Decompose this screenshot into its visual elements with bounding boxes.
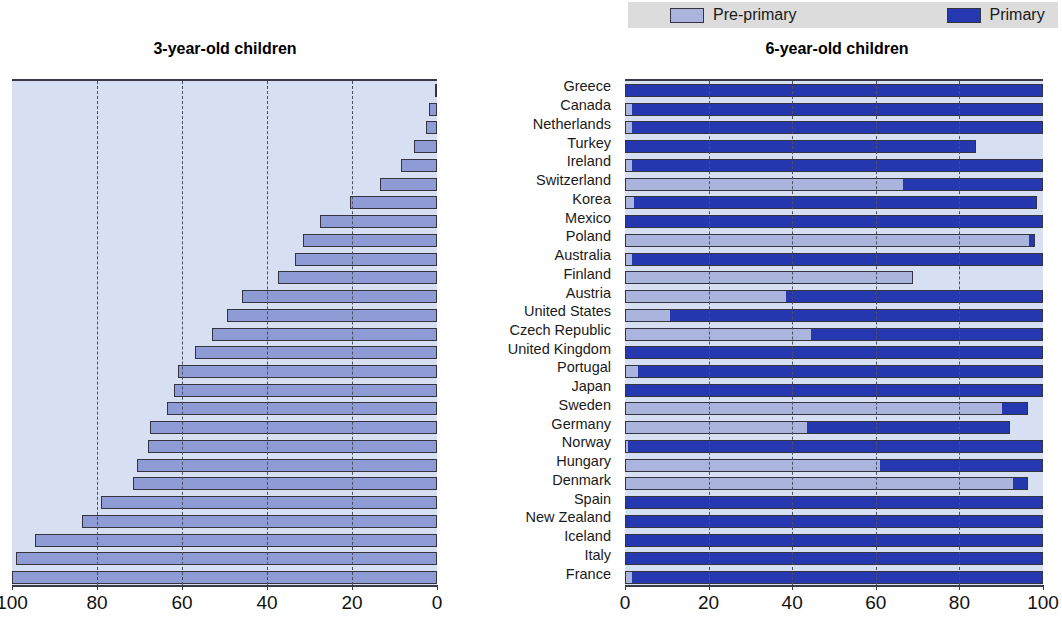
gridline: [182, 81, 183, 585]
bar-6-year-olds: [625, 421, 1010, 434]
gridline: [709, 81, 710, 585]
bar-segment-pre-primary: [626, 366, 638, 377]
plot-area-6-year-olds: [625, 79, 1043, 585]
bar-row: [625, 271, 1043, 284]
bar-6-year-olds: [625, 103, 1043, 116]
bar-6-year-olds: [625, 384, 1043, 397]
bar-row: [625, 309, 1043, 322]
bar-segment-primary: [626, 85, 1042, 96]
category-label: Canada: [560, 99, 611, 112]
bar-segment-primary: [632, 104, 1042, 115]
category-label: Iceland: [564, 530, 611, 543]
bar-3-year-olds: [429, 103, 438, 116]
gridline: [267, 81, 268, 585]
x-tick-mark: [959, 585, 960, 590]
bar-row: [12, 178, 437, 191]
gridline: [792, 81, 793, 585]
chart-title-left: 3-year-old children: [0, 40, 450, 58]
bar-segment-pre-primary: [626, 329, 811, 340]
x-tick-mark: [625, 585, 626, 590]
category-label: United States: [524, 305, 611, 318]
category-label: Spain: [574, 493, 611, 506]
bar-row: [625, 140, 1043, 153]
category-label: Japan: [571, 380, 611, 393]
category-label: Italy: [584, 549, 611, 562]
bar-segment-pre-primary: [626, 272, 912, 283]
x-tick-label: 40: [782, 592, 803, 614]
x-tick-mark: [876, 585, 877, 590]
bar-segment-primary: [1029, 235, 1033, 246]
bar-segment-primary: [632, 254, 1042, 265]
bar-6-year-olds: [625, 309, 1043, 322]
bar-3-year-olds: [320, 215, 437, 228]
bar-segment-pre-primary: [626, 478, 1013, 489]
bar-3-year-olds: [195, 346, 437, 359]
category-label: Sweden: [559, 399, 611, 412]
x-tick-label: 100: [1027, 592, 1059, 614]
bar-segment-primary: [626, 216, 1042, 227]
x-tick-label: 20: [698, 592, 719, 614]
bar-segment-primary: [632, 160, 1042, 171]
bar-6-year-olds: [625, 571, 1043, 584]
bar-row: [12, 459, 437, 472]
bar-3-year-olds: [133, 477, 437, 490]
category-label: Australia: [555, 249, 611, 262]
bar-row: [625, 421, 1043, 434]
bar-6-year-olds: [625, 440, 1043, 453]
bar-row: [625, 440, 1043, 453]
bar-row: [625, 402, 1043, 415]
bar-segment-pre-primary: [626, 460, 880, 471]
x-tick-mark: [1043, 585, 1044, 590]
bar-row: [625, 178, 1043, 191]
bar-segment-primary: [1002, 403, 1027, 414]
bar-3-year-olds: [426, 121, 437, 134]
bar-row: [625, 552, 1043, 565]
bar-3-year-olds: [16, 552, 437, 565]
bar-6-year-olds: [625, 178, 1043, 191]
chart-legend: Pre-primary Primary: [628, 2, 1058, 28]
bar-row: [12, 477, 437, 490]
bar-row: [625, 477, 1043, 490]
bar-6-year-olds: [625, 459, 1043, 472]
bar-segment-primary: [626, 385, 1042, 396]
bar-3-year-olds: [303, 234, 437, 247]
legend-swatch-primary: [947, 8, 981, 23]
category-label: Czech Republic: [509, 324, 611, 337]
bar-6-year-olds: [625, 121, 1043, 134]
bar-3-year-olds: [12, 571, 437, 584]
category-label: New Zealand: [526, 511, 611, 524]
bar-row: [12, 159, 437, 172]
bar-3-year-olds: [242, 290, 438, 303]
bar-segment-primary: [632, 572, 1042, 583]
category-label: United Kingdom: [508, 343, 611, 356]
bar-segment-primary: [811, 329, 1042, 340]
bar-row: [12, 496, 437, 509]
bar-3-year-olds: [82, 515, 437, 528]
bar-row: [625, 365, 1043, 378]
bar-6-year-olds: [625, 253, 1043, 266]
bar-segment-primary: [626, 347, 1042, 358]
bar-row: [12, 215, 437, 228]
bar-row: [625, 159, 1043, 172]
bar-3-year-olds: [212, 328, 437, 341]
bar-row: [12, 534, 437, 547]
category-label: France: [566, 568, 611, 581]
bar-6-year-olds: [625, 159, 1043, 172]
bar-segment-primary: [903, 179, 1042, 190]
bar-6-year-olds: [625, 477, 1028, 490]
gridline: [876, 81, 877, 585]
bar-row: [12, 365, 437, 378]
bar-row: [12, 253, 437, 266]
bar-segment-primary: [786, 291, 1042, 302]
x-tick-label: 60: [865, 592, 886, 614]
bar-3-year-olds: [148, 440, 437, 453]
x-tick-mark: [267, 585, 268, 590]
bar-3-year-olds: [227, 309, 437, 322]
bar-6-year-olds: [625, 365, 1043, 378]
bar-row: [625, 534, 1043, 547]
gridline: [352, 81, 353, 585]
plot-area-3-year-olds: [12, 79, 437, 585]
x-axis-labels-right: 020406080100: [0, 592, 1062, 622]
bar-segment-primary: [634, 197, 1035, 208]
bar-6-year-olds: [625, 196, 1037, 209]
